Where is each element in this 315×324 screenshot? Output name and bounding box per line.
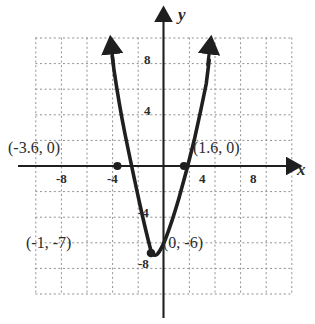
x-tick-label-4: 4 [199,172,206,185]
coordinate-plane-svg [0,0,315,324]
annotation-vertex: (-1, -7) [26,235,71,251]
annotation-y-intercept: (0, -6) [163,235,203,251]
y-tick-label-neg8: -8 [138,257,149,270]
graph-figure: -8 -4 4 8 8 4 -4 -8 y x (-3.6, 0) (1.6, … [0,0,315,324]
curve-right-arrow [208,48,210,66]
annotation-right-x-intercept: (1.6, 0) [193,140,240,156]
point-marker-left-x-intercept [113,162,121,170]
curve-left-arrow [112,48,114,66]
x-tick-label-neg4: -4 [107,172,118,185]
y-tick-label-neg4: -4 [138,206,149,219]
y-axis-name-label: y [178,6,186,23]
point-marker-right-x-intercept [180,162,188,170]
y-tick-label-8: 8 [144,53,151,66]
x-tick-label-8: 8 [250,172,257,185]
x-axis-name-label: x [297,161,306,178]
y-tick-label-4: 4 [144,104,151,117]
annotation-left-x-intercept: (-3.6, 0) [8,140,60,156]
x-tick-label-neg8: -8 [56,172,67,185]
